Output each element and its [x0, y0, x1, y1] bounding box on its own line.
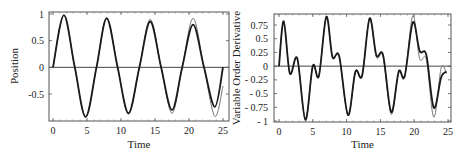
x-tick-label: 0 — [51, 125, 56, 136]
x-tick-label: 10 — [342, 126, 352, 137]
x-axis-label: Time — [351, 138, 374, 150]
y-tick-label: 0.75 — [251, 20, 269, 31]
x-tick-label: 20 — [409, 126, 419, 137]
y-tick-label: - 1 — [257, 116, 268, 127]
y-tick-label: -0.5 — [28, 89, 44, 100]
y-tick-label: 0.25 — [251, 47, 269, 58]
x-tick-label: 0 — [277, 126, 282, 137]
y-tick-label: 0.5 — [32, 35, 45, 46]
x-tick-label: 5 — [85, 125, 90, 136]
x-tick-label: 20 — [184, 125, 194, 136]
y-axis-label: Variable Order Derivative — [230, 11, 242, 125]
derivative-plot: 05101520250.750.50.250- 0.25- 0.5- 0.75-… — [230, 11, 453, 150]
y-tick-label: 0 — [263, 61, 268, 72]
x-tick-label: 15 — [150, 125, 160, 136]
x-tick-label: 15 — [375, 126, 385, 137]
position-plot: 051015202510.50-0.5TimePosition — [8, 9, 229, 151]
x-tick-label: 25 — [443, 126, 453, 137]
series-approximation — [279, 17, 447, 120]
y-tick-label: - 0.5 — [250, 88, 268, 99]
x-tick-label: 25 — [218, 125, 228, 136]
x-tick-label: 5 — [310, 126, 315, 137]
y-axis-label: Position — [8, 47, 20, 84]
y-tick-label: - 0.75 — [245, 102, 268, 113]
x-axis-label: Time — [128, 138, 151, 150]
y-tick-label: 0.5 — [256, 33, 269, 44]
y-tick-label: 1 — [39, 9, 44, 20]
x-tick-label: 10 — [116, 125, 126, 136]
series-reference — [53, 15, 223, 117]
y-tick-label: - 0.25 — [245, 74, 268, 85]
figure: 051015202510.50-0.5TimePosition 05101520… — [0, 0, 460, 158]
y-tick-label: 0 — [39, 62, 44, 73]
